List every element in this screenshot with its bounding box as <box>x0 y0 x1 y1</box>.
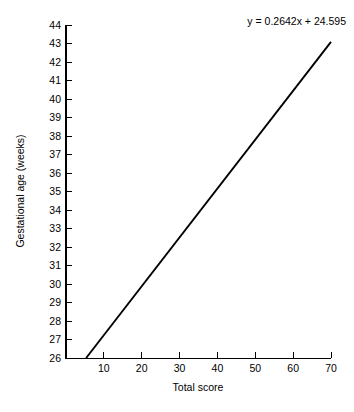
y-axis-title: Gestational age (weeks) <box>14 134 26 247</box>
y-axis-ticks <box>66 25 72 358</box>
y-axis-tick-label: 40 <box>49 93 61 105</box>
y-axis-tick-label: 29 <box>49 296 61 308</box>
y-axis-tick-label: 35 <box>49 185 61 197</box>
x-axis-tick-label: 50 <box>249 362 261 374</box>
x-axis-tick-label: 10 <box>98 362 110 374</box>
x-axis-tick-label: 30 <box>174 362 186 374</box>
y-axis-tick-label: 36 <box>49 167 61 179</box>
y-axis-tick-label: 34 <box>49 204 61 216</box>
x-axis-tick-label: 60 <box>287 362 299 374</box>
y-axis-tick-label: 26 <box>49 352 61 364</box>
y-axis-tick-label: 44 <box>49 19 61 31</box>
y-axis-tick-label: 28 <box>49 315 61 327</box>
regression-equation-annotation: y = 0.2642x + 24.595 <box>247 15 346 27</box>
y-axis-tick-label: 33 <box>49 222 61 234</box>
x-axis-tick-label: 20 <box>136 362 148 374</box>
x-axis-tick-label: 40 <box>212 362 224 374</box>
y-axis-tick-label: 38 <box>49 130 61 142</box>
y-axis-tick-label: 41 <box>49 74 61 86</box>
regression-line <box>86 42 331 358</box>
x-axis-title: Total score <box>173 381 224 393</box>
y-axis-tick-label: 42 <box>49 56 61 68</box>
data-series-group <box>86 42 331 358</box>
x-axis-tick-labels: 10203040506070 <box>98 362 337 374</box>
regression-line-chart: 26272829303132333435363738394041424344 1… <box>0 0 354 412</box>
y-axis-tick-label: 32 <box>49 241 61 253</box>
x-axis-ticks <box>104 352 331 358</box>
x-axis-tick-label: 70 <box>325 362 337 374</box>
y-axis-tick-labels: 26272829303132333435363738394041424344 <box>49 19 61 364</box>
y-axis-tick-label: 43 <box>49 37 61 49</box>
y-axis-tick-label: 31 <box>49 259 61 271</box>
y-axis-tick-label: 27 <box>49 333 61 345</box>
chart-container: 26272829303132333435363738394041424344 1… <box>0 0 354 412</box>
y-axis-tick-label: 37 <box>49 148 61 160</box>
y-axis-tick-label: 30 <box>49 278 61 290</box>
y-axis-tick-label: 39 <box>49 111 61 123</box>
